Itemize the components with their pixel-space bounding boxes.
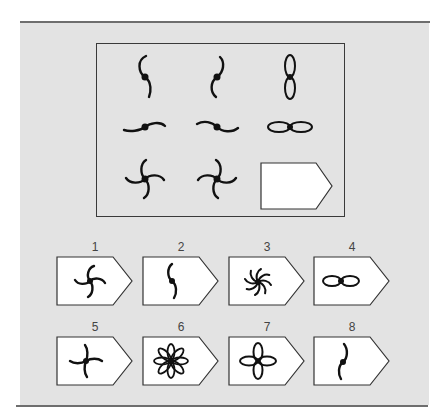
option-3[interactable] — [228, 256, 306, 306]
four-petal-flower-icon — [228, 336, 306, 386]
four-blade-pinwheel-alt-icon — [56, 336, 134, 386]
two-blade-vertical-mirrored-icon — [313, 336, 391, 386]
option-6[interactable] — [142, 336, 220, 386]
option-6-label: 6 — [142, 320, 220, 334]
two-blade-vertical-mirrored-icon — [192, 52, 242, 102]
option-1-label: 1 — [56, 240, 134, 254]
option-5-label: 5 — [56, 320, 134, 334]
four-blade-pinwheel-icon — [120, 154, 170, 204]
eight-petal-flower-icon — [142, 336, 220, 386]
four-blade-pinwheel-mirrored-icon — [192, 154, 242, 204]
option-8-label: 8 — [313, 320, 391, 334]
option-5[interactable] — [56, 336, 134, 386]
two-petal-vertical-icon — [265, 52, 315, 102]
two-petal-horizontal-icon — [265, 102, 315, 152]
two-blade-vertical-icon — [142, 256, 220, 306]
option-3-label: 3 — [228, 240, 306, 254]
option-7-label: 7 — [228, 320, 306, 334]
option-2[interactable] — [142, 256, 220, 306]
two-blade-horizontal-mirrored-icon — [192, 102, 242, 152]
option-4-label: 4 — [313, 240, 391, 254]
blank-answer-slot — [260, 162, 340, 210]
two-blade-vertical-icon — [120, 52, 170, 102]
bottom-rule — [16, 405, 428, 407]
option-1[interactable] — [56, 256, 134, 306]
option-8[interactable] — [313, 336, 391, 386]
option-4[interactable] — [313, 256, 391, 306]
eight-blade-spiral-icon — [228, 256, 306, 306]
two-petal-horizontal-icon — [313, 256, 391, 306]
two-blade-horizontal-icon — [120, 102, 170, 152]
option-2-label: 2 — [142, 240, 220, 254]
question-matrix — [96, 43, 345, 217]
option-7[interactable] — [228, 336, 306, 386]
four-blade-pinwheel-icon — [56, 256, 134, 306]
